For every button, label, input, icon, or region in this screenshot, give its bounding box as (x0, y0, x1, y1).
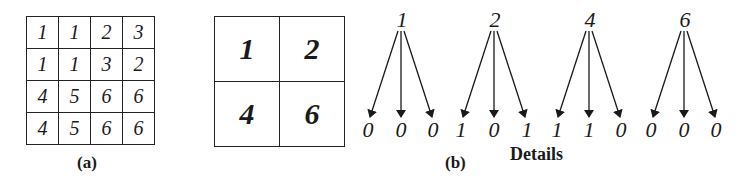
tree-leaf: 0 (679, 117, 690, 142)
tree-root: 6 (680, 7, 691, 32)
tree-leaf: 0 (363, 117, 374, 142)
tree-leaf: 0 (428, 117, 439, 142)
details-caption: Details (510, 144, 563, 165)
tree-diagrams: 1 0 0 0 2 1 0 1 4 1 1 0 6 0 0 0 (0, 0, 747, 182)
tree-leaf: 0 (616, 117, 627, 142)
tree-root: 1 (397, 7, 408, 32)
tree-3: 4 1 1 0 (552, 7, 627, 142)
tree-4: 6 0 0 0 (646, 7, 722, 142)
tree-leaf: 1 (552, 117, 563, 142)
tree-2: 2 1 0 1 (456, 7, 533, 142)
panel-b-label: (b) (445, 153, 466, 173)
tree-1: 1 0 0 0 (363, 7, 439, 142)
tree-leaf: 0 (396, 117, 407, 142)
tree-leaf: 0 (711, 117, 722, 142)
tree-leaf: 1 (456, 117, 467, 142)
tree-leaf: 0 (646, 117, 657, 142)
tree-root: 2 (490, 7, 501, 32)
tree-root: 4 (585, 7, 596, 32)
tree-leaf: 1 (522, 117, 533, 142)
tree-leaf: 0 (489, 117, 500, 142)
tree-leaf: 1 (584, 117, 595, 142)
